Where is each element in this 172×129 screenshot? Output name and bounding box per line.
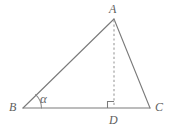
triangle-figure-canvas (0, 0, 172, 129)
angle-label-alpha: α (40, 93, 47, 105)
vertex-label-c: C (155, 101, 163, 113)
vertex-label-b: B (9, 101, 16, 113)
segment-ac (114, 19, 150, 108)
segment-ab (23, 19, 114, 108)
vertex-label-a: A (109, 3, 116, 15)
triangle-diagram: A B C D α (0, 0, 172, 129)
vertex-label-d: D (109, 114, 118, 126)
right-angle-marker-d (108, 102, 115, 109)
